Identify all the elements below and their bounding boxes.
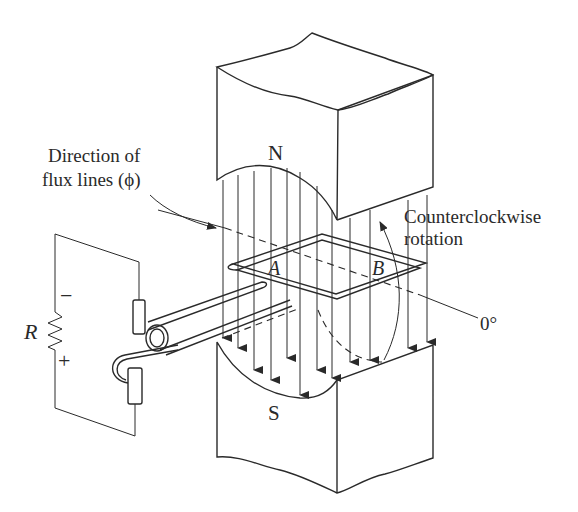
north-pole-magnet: N [217,33,433,220]
shaft-leads [148,282,292,355]
north-pole-label: N [268,141,283,165]
reference-line-left [158,210,225,228]
side-a-label: A [266,257,281,279]
flux-lines [223,168,427,395]
reference-line-right [420,295,478,318]
south-pole-label: S [268,401,280,425]
plus-sign: + [58,348,70,373]
zero-degree-label: 0° [480,313,497,334]
rotation-label-line2: rotation [404,228,464,249]
generator-diagram: N S 0° A B [0,0,578,512]
rotation-label-line1: Counterclockwise [404,206,541,227]
flux-label-line1: Direction of [48,145,141,166]
armature-loop: A B [222,234,426,362]
minus-sign: − [60,283,72,308]
rotation-arrow [380,222,399,360]
south-pole-magnet: S [217,342,433,493]
resistor-label: R [23,319,38,344]
external-circuit: − + R [23,234,139,436]
side-b-label: B [372,257,384,279]
flux-label-line2: flux lines (ϕ) [42,169,141,191]
